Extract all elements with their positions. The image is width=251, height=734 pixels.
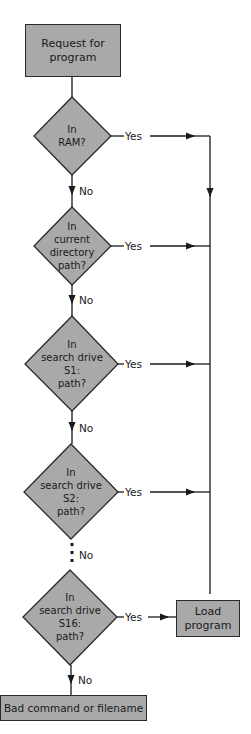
s1-line1: In [41, 338, 103, 351]
decision-s2-label: In search drive S2: path? [40, 466, 102, 518]
s2-line1: In [40, 466, 102, 479]
yes-label-s2: Yes [124, 486, 143, 498]
cd-line2: current [50, 233, 95, 246]
yes-label-current-dir: Yes [124, 240, 143, 252]
decision-s16-label: In search drive S16: path? [39, 591, 101, 643]
no-label-s16: No [77, 674, 93, 686]
yes-label-s16: Yes [124, 611, 143, 623]
start-box: Request for program [25, 24, 121, 77]
load-line2: program [185, 619, 232, 633]
no-label-s2: No [78, 549, 94, 561]
bad-command-label: Bad command or filename [4, 701, 143, 715]
bad-command-box: Bad command or filename [0, 695, 147, 721]
load-line1: Load [185, 605, 232, 619]
yes-label-s1: Yes [124, 358, 143, 370]
ellipsis-dots [71, 543, 74, 562]
start-line1: Request for [41, 37, 104, 51]
no-label-s1: No [78, 422, 94, 434]
s1-line3: S1: [41, 364, 103, 377]
s2-line4: path? [40, 505, 102, 518]
s2-line2: search drive [40, 479, 102, 492]
s16-line3: S16: [39, 617, 101, 630]
no-label-ram: No [78, 185, 94, 197]
cd-line4: path? [50, 259, 95, 272]
ram-line1: In [58, 123, 85, 136]
start-line2: program [41, 51, 104, 65]
s2-line3: S2: [40, 492, 102, 505]
s16-line4: path? [39, 630, 101, 643]
s1-line2: search drive [41, 351, 103, 364]
yes-label-ram: Yes [124, 130, 143, 142]
decision-s1-label: In search drive S1: path? [41, 338, 103, 390]
decision-ram-label: In RAM? [58, 123, 85, 149]
cd-line1: In [50, 220, 95, 233]
load-program-box: Load program [176, 600, 240, 637]
s16-line2: search drive [39, 604, 101, 617]
ram-line2: RAM? [58, 136, 85, 149]
s16-line1: In [39, 591, 101, 604]
cd-line3: directory [50, 246, 95, 259]
no-label-current-dir: No [78, 294, 94, 306]
s1-line4: path? [41, 377, 103, 390]
decision-current-directory-label: In current directory path? [50, 220, 95, 272]
